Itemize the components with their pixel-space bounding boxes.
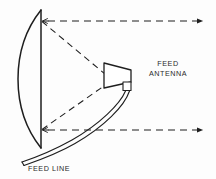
feed-line-label: FEED LINE	[28, 164, 70, 173]
ray-diagonal-upper	[42, 22, 111, 80]
diagram-canvas: FEED ANTENNA FEED LINE	[0, 0, 216, 179]
parabolic-reflector-arc	[18, 10, 41, 148]
feed-line-end-cap	[22, 162, 24, 166]
feed-line-outer-conductor	[22, 91, 126, 162]
feed-antenna-label-line2: ANTENNA	[149, 69, 187, 78]
feed-antenna-label-line1: FEED	[157, 59, 178, 68]
feed-line-inner-conductor	[24, 91, 130, 166]
ray-diagonal-lower	[42, 81, 111, 130]
parabolic-antenna-diagram: FEED ANTENNA FEED LINE	[0, 0, 216, 179]
feed-connector-block	[123, 82, 131, 91]
